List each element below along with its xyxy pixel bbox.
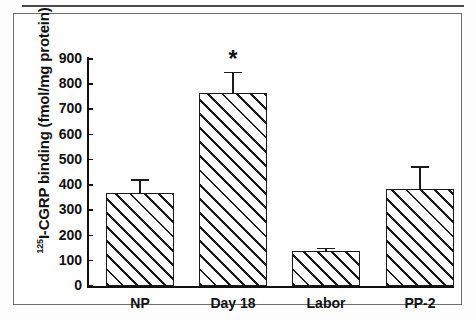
y-tick-label: 200 bbox=[59, 227, 82, 243]
y-tick-label: 400 bbox=[59, 176, 82, 192]
bar-np bbox=[106, 193, 174, 286]
y-tick-label: 800 bbox=[59, 75, 82, 91]
error-bar-cap-np bbox=[131, 179, 149, 181]
isotope-superscript: 125 bbox=[35, 239, 45, 253]
error-bar-stem-day-18 bbox=[232, 72, 234, 93]
y-tick-mark bbox=[87, 108, 93, 110]
error-bar-cap-pp-2 bbox=[411, 166, 429, 168]
x-axis-label-pp-2: PP-2 bbox=[404, 295, 435, 311]
y-tick-label: 0 bbox=[74, 277, 82, 293]
error-bar-stem-pp-2 bbox=[419, 166, 421, 189]
y-axis-title-text: I-CGRP binding (fmol/mg protein) bbox=[35, 7, 52, 239]
error-bar-cap-day-18 bbox=[224, 72, 242, 74]
error-bar-stem-np bbox=[139, 179, 141, 193]
y-tick-label: 700 bbox=[59, 100, 82, 116]
y-tick-mark bbox=[87, 209, 93, 211]
y-tick-label: 900 bbox=[59, 50, 82, 66]
figure-frame: 125I-CGRP binding (fmol/mg protein) 0100… bbox=[13, 13, 462, 305]
y-tick-label: 600 bbox=[59, 126, 82, 142]
y-tick-mark bbox=[87, 83, 93, 85]
y-tick-mark bbox=[87, 235, 93, 237]
bar-pp-2 bbox=[386, 189, 454, 286]
x-axis-label-labor: Labor bbox=[307, 295, 346, 311]
y-axis-title: 125I-CGRP binding (fmol/mg protein) bbox=[35, 6, 52, 256]
x-axis-label-day-18: Day 18 bbox=[210, 295, 255, 311]
x-axis-line bbox=[87, 286, 454, 288]
x-axis-label-np: NP bbox=[130, 295, 149, 311]
y-tick-mark bbox=[87, 260, 93, 262]
y-tick-label: 500 bbox=[59, 151, 82, 167]
y-tick-label: 100 bbox=[59, 252, 82, 268]
bar-day-18 bbox=[199, 93, 267, 286]
y-tick-mark bbox=[87, 159, 93, 161]
y-tick-mark bbox=[87, 184, 93, 186]
bar-labor bbox=[292, 251, 360, 286]
plot-area: 0100200300400500600700800900 * NPDay 18L… bbox=[74, 33, 454, 295]
y-tick-label: 300 bbox=[59, 201, 82, 217]
significance-marker-day-18: * bbox=[229, 48, 238, 71]
error-bar-cap-labor bbox=[317, 248, 335, 250]
y-tick-mark bbox=[87, 285, 93, 287]
y-tick-mark bbox=[87, 58, 93, 60]
y-tick-mark bbox=[87, 134, 93, 136]
page-top-rule bbox=[22, 5, 464, 7]
y-axis-line bbox=[87, 57, 89, 288]
